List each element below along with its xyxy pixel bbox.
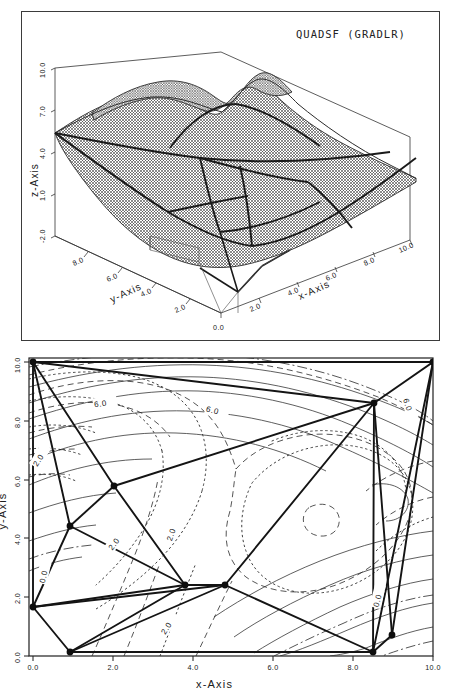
figure-page: QUADSF (GRADLR) bbox=[0, 0, 460, 699]
contour-x-tick-label: 10.0 bbox=[425, 663, 441, 672]
z-tick-label: 7.0 bbox=[38, 106, 47, 117]
contour-x-tick-label: 8.0 bbox=[347, 663, 358, 672]
contour-x-tick-label: 0.0 bbox=[27, 663, 38, 672]
z-tick-label: 10.0 bbox=[38, 62, 47, 78]
y-tick-label: 6.0 bbox=[105, 271, 119, 284]
contour-x-axis-label: x-Axis bbox=[196, 678, 233, 690]
y-tick-label: 8.0 bbox=[71, 255, 85, 268]
x-tick-label: 0.0 bbox=[213, 323, 224, 332]
z-tick-label: -2.0 bbox=[38, 229, 47, 243]
contour-value-label: 6.0 bbox=[94, 399, 108, 410]
contour-y-tick-label: 2.0 bbox=[13, 593, 22, 604]
y-axis-label: y-Axis bbox=[108, 281, 143, 305]
y-tick-label: 2.0 bbox=[173, 302, 187, 315]
contour-y-axis-label: y-Axis bbox=[0, 492, 8, 529]
contour-y-tick-label: 4.0 bbox=[13, 534, 22, 545]
contour-y-tick-label: 0.0 bbox=[13, 652, 22, 663]
contour-plot-graphic: 6.0 6.0 6.0 2.0 bbox=[0, 345, 460, 699]
z-tick-label: 4.0 bbox=[38, 148, 47, 159]
surface-plot-graphic: -2.0 1.0 4.0 7.0 10.0 z-Axis 8.0 6.0 bbox=[0, 0, 460, 345]
contour-x-tick-label: 6.0 bbox=[267, 663, 278, 672]
surface-plot-panel: QUADSF (GRADLR) bbox=[0, 0, 460, 345]
contour-y-tick-label: 6.0 bbox=[13, 476, 22, 487]
contour-x-tick-label: 4.0 bbox=[187, 663, 198, 672]
contour-plot-panel: 6.0 6.0 6.0 2.0 bbox=[0, 345, 460, 699]
z-axis-label: z-Axis bbox=[29, 163, 40, 197]
x-tick-label: 10.0 bbox=[397, 240, 415, 255]
contour-y-tick-label: 8.0 bbox=[13, 417, 22, 428]
x-tick-label: 2.0 bbox=[248, 301, 262, 314]
x-tick-label: 8.0 bbox=[362, 255, 376, 268]
contour-x-tick-label: 2.0 bbox=[107, 663, 118, 672]
contour-y-tick-label: 10.0 bbox=[13, 357, 22, 373]
